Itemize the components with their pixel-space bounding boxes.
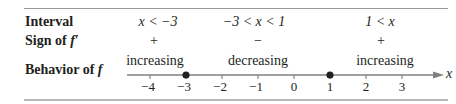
- arrow-head-icon: [433, 72, 444, 79]
- tick-label: −2: [213, 79, 227, 95]
- critical-point-neg3: [182, 71, 189, 78]
- tick-label: 1: [327, 79, 334, 95]
- axis-label-x: x: [446, 66, 452, 82]
- tick-label: −3: [177, 79, 191, 95]
- tick-label: 0: [291, 79, 298, 95]
- tick-label: −1: [249, 79, 263, 95]
- tick-label: 3: [399, 79, 406, 95]
- tick-label: 2: [363, 79, 370, 95]
- number-line: [0, 0, 456, 104]
- critical-point-1: [326, 71, 333, 78]
- tick-label: −4: [141, 79, 155, 95]
- bottom-rule: [24, 99, 448, 101]
